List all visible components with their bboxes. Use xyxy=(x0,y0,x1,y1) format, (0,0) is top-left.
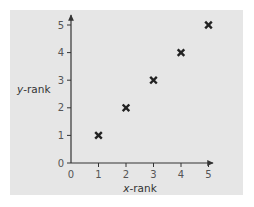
data-point-x-marker xyxy=(178,49,185,56)
x-tick-label: 4 xyxy=(178,169,184,180)
x-tick-label: 5 xyxy=(205,169,211,180)
axes xyxy=(71,15,213,163)
axis-ticks: 012345012345 xyxy=(58,20,212,181)
y-tick-label: 4 xyxy=(58,47,64,58)
y-tick-label: 2 xyxy=(58,102,64,113)
y-axis-label: y-rank xyxy=(16,83,51,95)
x-tick-label: 1 xyxy=(95,169,101,180)
data-point-x-marker xyxy=(95,132,102,139)
x-tick-label: 0 xyxy=(68,169,74,180)
x-tick-label: 3 xyxy=(150,169,156,180)
data-point-x-marker xyxy=(205,22,212,29)
y-tick-label: 5 xyxy=(58,20,64,31)
y-tick-label: 3 xyxy=(58,75,64,86)
y-tick-label: 1 xyxy=(58,130,64,141)
data-point-x-marker xyxy=(123,105,130,112)
y-tick-label: 0 xyxy=(58,158,64,169)
x-axis-label: x-rank xyxy=(122,182,157,194)
scatter-chart: 012345012345 x-rank y-rank xyxy=(0,0,254,207)
data-points xyxy=(95,22,212,139)
data-point-x-marker xyxy=(150,77,157,84)
x-tick-label: 2 xyxy=(123,169,129,180)
